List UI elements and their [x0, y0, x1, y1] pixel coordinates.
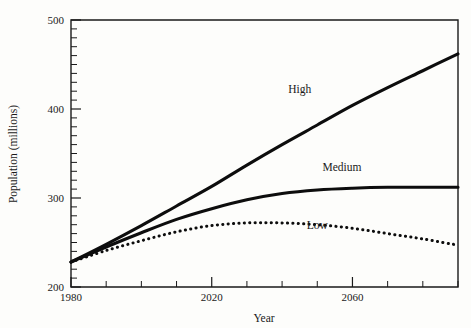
x-axis-minor-ticks: [106, 281, 458, 287]
series-label-medium: Medium: [322, 161, 361, 173]
x-axis-major-ticks: [71, 277, 352, 287]
chart-canvas: 200300400500 198020202060 Population (mi…: [0, 0, 471, 328]
series-curve-low: [71, 223, 458, 262]
y-tick-label: 500: [48, 14, 65, 26]
chart-series: [71, 54, 458, 262]
y-tick-label: 300: [48, 192, 65, 204]
y-axis-title: Population (millions): [7, 105, 20, 203]
y-axis-minor-ticks: [71, 29, 77, 278]
series-curve-high: [71, 54, 458, 262]
x-axis-title: Year: [253, 312, 274, 324]
y-tick-label: 400: [48, 103, 65, 115]
x-axis-tick-labels: 198020202060: [60, 291, 364, 303]
x-tick-label: 2020: [201, 291, 224, 303]
series-curve-medium: [71, 187, 458, 262]
x-tick-label: 2060: [341, 291, 364, 303]
y-axis-tick-labels: 200300400500: [48, 14, 65, 293]
x-tick-label: 1980: [60, 291, 83, 303]
population-projection-chart: 200300400500 198020202060 Population (mi…: [0, 0, 471, 328]
series-label-low: Low: [307, 219, 329, 231]
series-label-high: High: [288, 83, 311, 96]
